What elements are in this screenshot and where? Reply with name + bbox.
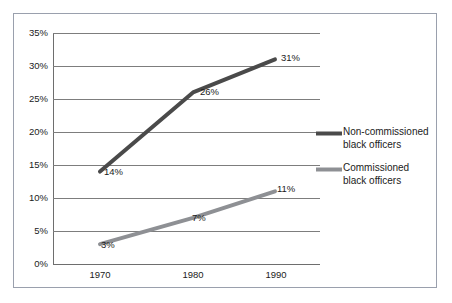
chart-figure: 35% 30% 25% 20% 15% 10% 5% 0% 1970 1980 … (0, 0, 452, 303)
y-axis-tick-labels: 35% 30% 25% 20% 15% 10% 5% 0% (0, 0, 48, 275)
point-label-commissioned-1980: 7% (192, 212, 206, 223)
legend-entry-noncommissioned[interactable]: Non-commissioned black officers (316, 126, 434, 151)
legend-line-commissioned-icon (316, 167, 342, 172)
legend-label-noncommissioned: Non-commissioned black officers (343, 126, 434, 151)
gridline-35 (53, 33, 320, 34)
legend-line-noncommissioned-icon (316, 131, 342, 136)
point-label-noncommissioned-1980: 26% (200, 86, 219, 97)
legend-swatch-noncommissioned-icon (316, 131, 342, 136)
gridline-5 (53, 231, 320, 232)
legend-label-commissioned: Commissioned black officers (343, 162, 434, 187)
y-tick-35: 35% (29, 28, 48, 38)
y-tick-30: 30% (29, 61, 48, 71)
gridline-15 (53, 165, 320, 166)
point-label-commissioned-1990: 11% (277, 183, 295, 194)
gridline-0 (53, 264, 320, 265)
gridline-20 (53, 132, 320, 133)
x-tick-1970: 1970 (70, 269, 130, 280)
chart-legend: Non-commissioned black officers Commissi… (316, 126, 434, 198)
point-label-commissioned-1970: 3% (101, 239, 115, 250)
gridline-25 (53, 99, 320, 100)
legend-entry-commissioned[interactable]: Commissioned black officers (316, 162, 434, 187)
y-tick-25: 25% (29, 94, 48, 104)
x-tick-1980: 1980 (163, 269, 223, 280)
point-label-noncommissioned-1990: 31% (281, 52, 300, 63)
y-tick-0: 0% (34, 259, 48, 269)
gridline-30 (53, 66, 320, 67)
y-tick-10: 10% (29, 193, 48, 203)
point-label-noncommissioned-1970: 14% (104, 166, 123, 177)
y-tick-5: 5% (34, 226, 48, 236)
legend-swatch-commissioned-icon (316, 167, 342, 172)
x-tick-1990: 1990 (246, 269, 306, 280)
gridline-10 (53, 198, 320, 199)
plot-area (53, 33, 320, 264)
y-tick-20: 20% (29, 127, 48, 137)
y-tick-15: 15% (29, 160, 48, 170)
